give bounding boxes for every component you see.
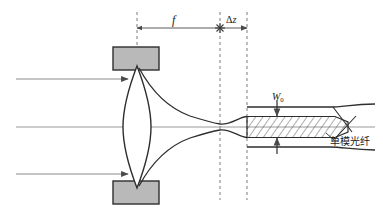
beam-waist-zero: 0 xyxy=(280,96,283,103)
defocus-label: Δz xyxy=(226,15,236,25)
lens-mount-top xyxy=(113,47,159,70)
beam-waist-label: W0 xyxy=(272,92,284,103)
fiber-name-label: 单模光纤 xyxy=(330,137,370,147)
fiber-core-hatched xyxy=(247,117,348,138)
beam-upper-edge xyxy=(139,68,247,124)
fiber-cladding-bottom xyxy=(247,147,375,150)
focal-length-label: f xyxy=(172,14,175,26)
beam-lower-edge xyxy=(139,130,247,186)
optical-coupling-diagram: f Δz W0 单模光纤 xyxy=(0,0,383,213)
fiber-cladding-top xyxy=(247,104,375,107)
diagram-canvas xyxy=(0,0,383,213)
biconvex-lens xyxy=(123,66,151,188)
dashed-guides xyxy=(137,12,247,200)
defocus-z: z xyxy=(232,14,236,25)
focus-star-marker xyxy=(215,23,225,33)
